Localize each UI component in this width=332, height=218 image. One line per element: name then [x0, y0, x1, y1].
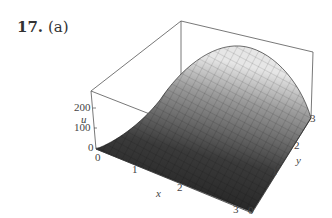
y-tick-2: 2 — [294, 139, 300, 151]
u-tick-0: 0 — [88, 141, 94, 153]
surface-plot — [0, 0, 332, 218]
y-axis-label: y — [296, 154, 301, 166]
u-tick-200: 200 — [74, 101, 91, 113]
x-tick-2: 2 — [177, 181, 183, 193]
y-tick-1: 1 — [272, 165, 278, 177]
y-tick-3: 3 — [310, 112, 316, 124]
x-tick-0: 0 — [95, 151, 101, 163]
x-tick-3: 3 — [233, 203, 239, 215]
u-tick-100: 100 — [74, 121, 91, 133]
x-tick-1: 1 — [132, 163, 138, 175]
x-axis-label: x — [156, 187, 161, 199]
y-tick-0: 0 — [248, 204, 254, 216]
